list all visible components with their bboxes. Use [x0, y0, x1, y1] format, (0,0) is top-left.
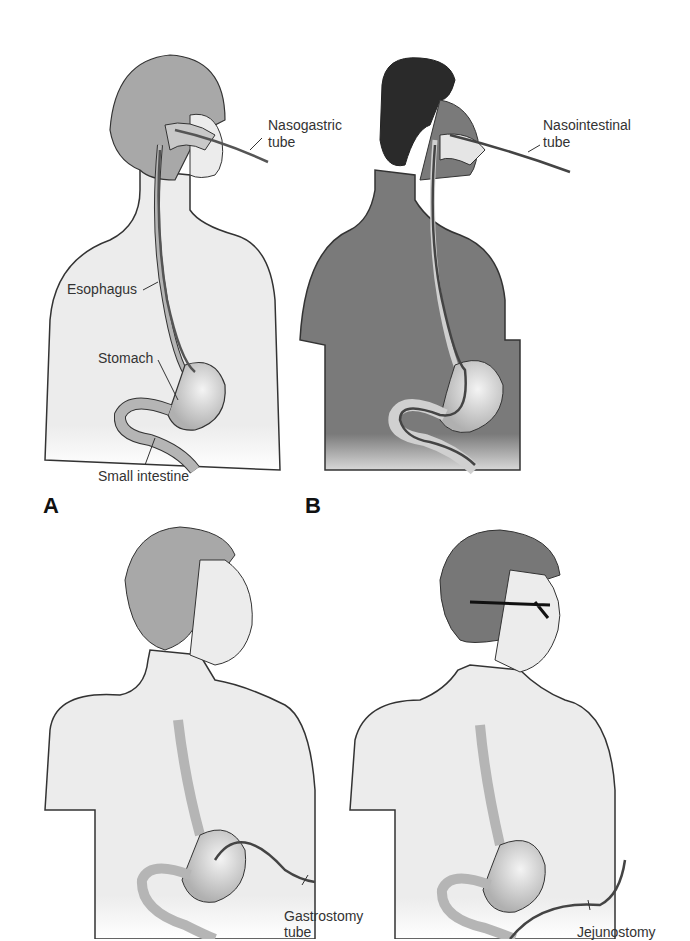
label-stomach: Stomach: [98, 350, 153, 367]
label-esophagus: Esophagus: [67, 281, 137, 298]
torso-c: [45, 650, 315, 939]
face-c: [190, 560, 252, 665]
torso-a: [45, 170, 280, 470]
label-nasogastric: Nasogastric: [268, 117, 342, 134]
panel-letter-b: B: [305, 493, 321, 519]
label-jejunostomy: Jejunostomy: [577, 924, 656, 941]
label-small-intestine: Small intestine: [98, 468, 189, 485]
label-gastrostomy-tube: tube: [284, 924, 311, 941]
label-gastrostomy: Gastrostomy: [284, 908, 363, 925]
torso-b: [300, 170, 520, 470]
panel-letter-a: A: [43, 493, 59, 519]
panel-a-nasogastric: [45, 55, 280, 470]
panel-d-jejunostomy: [350, 530, 625, 939]
panel-c-gastrostomy: [45, 527, 315, 939]
label-nasointestinal: Nasointestinal: [543, 117, 631, 134]
label-nasointestinal-tube: tube: [543, 134, 570, 151]
torso-d: [350, 665, 615, 939]
label-nasogastric-tube: tube: [268, 134, 295, 151]
